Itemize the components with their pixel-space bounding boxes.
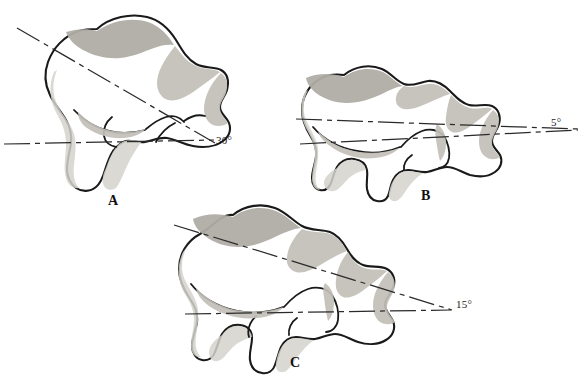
panel-c-drawing <box>174 205 452 373</box>
angle-label-c: 15° <box>456 298 472 310</box>
panel-a-drawing <box>4 16 230 191</box>
figure-drawing-canvas <box>0 0 585 380</box>
panel-label-a: A <box>108 193 118 209</box>
angle-label-b: 5° <box>551 116 561 128</box>
panel-label-b: B <box>421 188 430 204</box>
anatomical-figure: 30° A 5° B 15° C <box>0 0 585 380</box>
angle-label-a: 30° <box>216 134 232 146</box>
panel-label-c: C <box>290 355 300 371</box>
panel-b-drawing <box>296 66 578 201</box>
